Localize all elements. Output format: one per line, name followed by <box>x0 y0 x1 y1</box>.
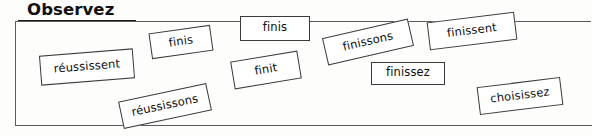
word-card-label: finissons <box>342 30 395 54</box>
page-title-block: Observez <box>27 1 237 23</box>
exercise-frame-baseline <box>15 125 592 126</box>
word-card-label: finissez <box>386 67 430 80</box>
word-card-label: finissent <box>446 22 497 40</box>
word-card-label: finis <box>168 34 194 50</box>
word-card-label: réussissent <box>53 58 120 76</box>
word-card-label: finit <box>254 62 279 78</box>
word-card[interactable]: finissez <box>371 62 445 85</box>
word-card-label: choisissez <box>490 86 551 106</box>
word-card-label: finis <box>263 22 287 35</box>
word-card[interactable]: finis <box>240 16 310 41</box>
page-title: Observez <box>27 1 114 19</box>
worksheet-page: Observez réussissentfinisfinisfinissonsf… <box>0 0 592 136</box>
